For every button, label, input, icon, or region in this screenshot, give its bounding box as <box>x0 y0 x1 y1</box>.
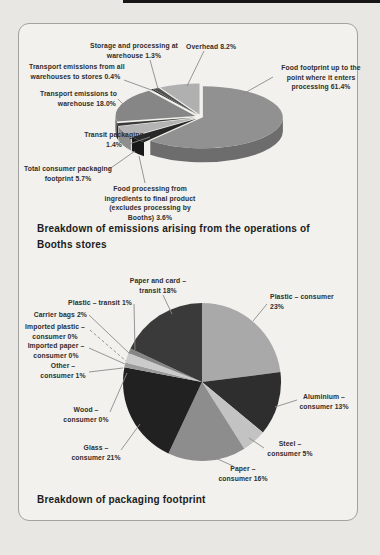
leader-line-food_processing <box>139 156 145 183</box>
scanned-report-page: Breakdown of emissions arising from the … <box>0 0 380 555</box>
leader-line-transport_warehouses_to_stores <box>124 80 154 91</box>
leader-line-glass_consumer <box>121 424 140 450</box>
leader-line-transport_to_warehouse <box>118 99 124 105</box>
leader-line-plastic_consumer <box>253 304 267 321</box>
leader-line-total_consumer_packaging <box>108 151 135 170</box>
leader-line-food_footprint <box>243 77 273 94</box>
leader-line-storage_processing_warehouse <box>150 60 158 89</box>
pie-emissions <box>115 83 283 162</box>
leader-line-other_consumer <box>89 368 123 372</box>
leader-line-overhead <box>187 51 204 86</box>
pie-packaging <box>123 303 281 461</box>
pie-slice-plastic_consumer <box>202 303 280 382</box>
charts-canvas <box>0 0 380 555</box>
